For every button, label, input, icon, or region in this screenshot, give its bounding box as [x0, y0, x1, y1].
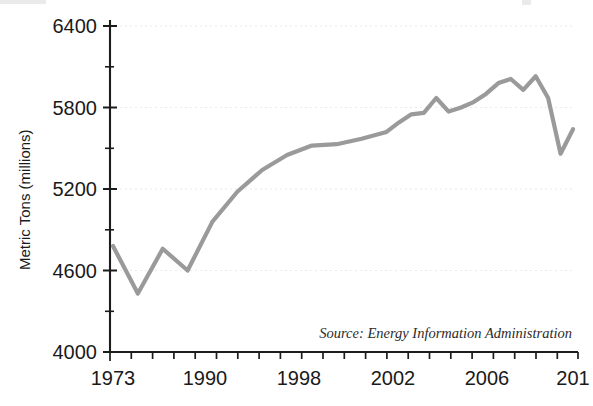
y-tick-label: 5800	[53, 97, 98, 119]
scan-artifacts	[0, 0, 531, 5]
x-tick-label: 201	[556, 367, 589, 389]
y-axis-title: Metric Tons (millions)	[16, 129, 33, 270]
x-tick-label: 1973	[91, 367, 136, 389]
x-ticks	[110, 352, 578, 361]
y-tick-label: 6400	[53, 15, 98, 37]
line-chart-svg: 6400 5800 5200 4600 4000 Metric Tons (mi…	[0, 0, 593, 406]
data-series-line	[113, 76, 573, 293]
chart-figure: 6400 5800 5200 4600 4000 Metric Tons (mi…	[0, 0, 593, 406]
y-tick-label: 4600	[53, 260, 98, 282]
y-axis	[103, 20, 117, 352]
x-tick-label: 1990	[183, 367, 228, 389]
x-axis	[110, 352, 578, 361]
y-tick-label: 5200	[53, 178, 98, 200]
x-tick-label: 1998	[277, 367, 322, 389]
x-tick-label: 2006	[465, 367, 510, 389]
x-tick-labels: 1973 1990 1998 2002 2006 201	[91, 367, 590, 389]
y-tick-label: 4000	[53, 341, 98, 363]
x-tick-label: 2002	[371, 367, 416, 389]
source-note: Source: Energy Information Administratio…	[319, 325, 572, 341]
y-tick-labels: 6400 5800 5200 4600 4000	[53, 15, 98, 363]
gridlines	[110, 26, 573, 271]
